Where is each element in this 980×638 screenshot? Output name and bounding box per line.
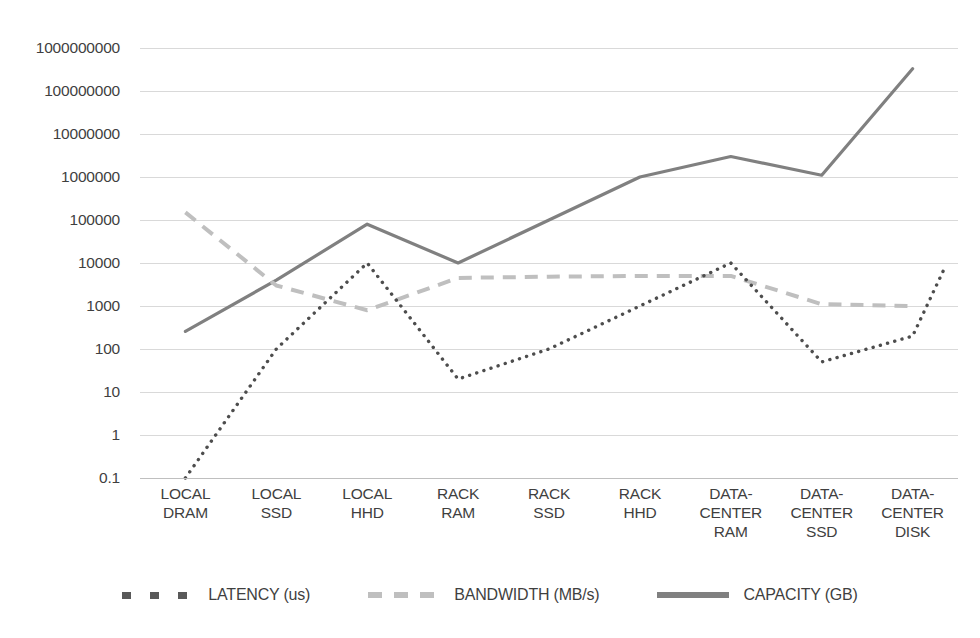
x-axis-category-line: LOCAL xyxy=(231,484,322,503)
x-axis-category-2: LOCALHHD xyxy=(322,484,413,554)
x-axis-category-line: SSD xyxy=(231,503,322,522)
legend-swatch-segment xyxy=(657,592,729,598)
x-axis-line xyxy=(140,478,958,479)
latency-line xyxy=(185,263,946,478)
chart-legend: LATENCY (us)BANDWIDTH (MB/s)CAPACITY (GB… xyxy=(0,578,980,612)
x-axis-category-line: RAM xyxy=(413,503,504,522)
bandwidth-line xyxy=(185,212,912,310)
memory-hierarchy-chart: 1000000000100000000100000001000000100000… xyxy=(0,0,980,638)
legend-swatch-segment xyxy=(368,592,382,598)
x-axis-category-line: RACK xyxy=(594,484,685,503)
x-axis-category-7: DATA-CENTERSSD xyxy=(776,484,867,554)
x-axis-category-line: CENTER xyxy=(776,503,867,522)
x-axis-category-line: CENTER xyxy=(685,503,776,522)
x-axis-category-4: RACKSSD xyxy=(504,484,595,554)
x-axis-category-line: DATA- xyxy=(867,484,958,503)
dashed-marker xyxy=(368,592,440,599)
x-axis-category-line: HHD xyxy=(594,503,685,522)
x-axis-category-line: SSD xyxy=(776,522,867,541)
x-axis-category-6: DATA-CENTERRAM xyxy=(685,484,776,554)
x-axis-category-5: RACKHHD xyxy=(594,484,685,554)
legend-swatch-segment xyxy=(122,592,131,599)
legend-swatch-segment xyxy=(420,592,434,598)
x-axis-labels: LOCALDRAMLOCALSSDLOCALHHDRACKRAMRACKSSDR… xyxy=(140,484,958,554)
x-axis-category-line: DATA- xyxy=(685,484,776,503)
legend-swatch-segment xyxy=(394,592,408,598)
x-axis-category-line: DISK xyxy=(867,522,958,541)
legend-swatch-segment xyxy=(150,592,159,599)
dotted-marker xyxy=(122,592,194,599)
x-axis-category-line: SSD xyxy=(504,503,595,522)
legend-item-1[interactable]: BANDWIDTH (MB/s) xyxy=(368,586,599,604)
x-axis-category-8: DATA-CENTERDISK xyxy=(867,484,958,554)
x-axis-category-3: RACKRAM xyxy=(413,484,504,554)
x-axis-category-line: LOCAL xyxy=(140,484,231,503)
x-axis-category-line: LOCAL xyxy=(322,484,413,503)
x-axis-category-line: RACK xyxy=(413,484,504,503)
legend-swatch-segment xyxy=(178,592,187,599)
x-axis-category-line: HHD xyxy=(322,503,413,522)
legend-label: LATENCY (us) xyxy=(208,586,310,604)
x-axis-category-1: LOCALSSD xyxy=(231,484,322,554)
legend-label: CAPACITY (GB) xyxy=(743,586,857,604)
x-axis-category-line: RACK xyxy=(504,484,595,503)
solid-marker xyxy=(657,592,729,599)
x-axis-category-line: RAM xyxy=(685,522,776,541)
x-axis-category-line: DATA- xyxy=(776,484,867,503)
x-axis-category-0: LOCALDRAM xyxy=(140,484,231,554)
x-axis-category-line: DRAM xyxy=(140,503,231,522)
x-axis-category-line: CENTER xyxy=(867,503,958,522)
legend-item-2[interactable]: CAPACITY (GB) xyxy=(657,586,857,604)
legend-label: BANDWIDTH (MB/s) xyxy=(454,586,599,604)
legend-item-0[interactable]: LATENCY (us) xyxy=(122,586,310,604)
